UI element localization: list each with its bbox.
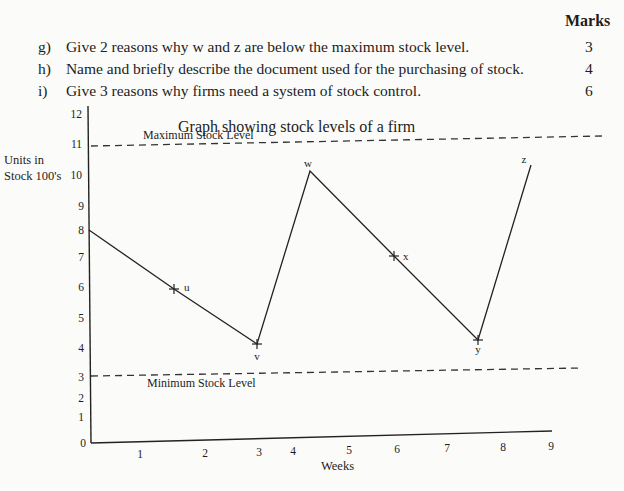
y-tick-label: 2 (78, 392, 84, 404)
y-tick-label: 11 (71, 138, 82, 150)
y-tick-label: 5 (78, 312, 84, 324)
x-axis-label: Weeks (321, 459, 354, 473)
y-axis-label-line-1: Units in (4, 153, 45, 167)
x-tick-label: 4 (290, 445, 296, 457)
x-tick-label: 3 (256, 446, 262, 458)
x-tick-label: 7 (444, 442, 450, 454)
y-tick-label: 8 (78, 224, 84, 236)
y-tick-label: 9 (78, 200, 84, 212)
data-point-markers: uvwxyz (169, 153, 527, 362)
point-label-y: y (475, 343, 481, 355)
y-tick-label: 10 (71, 169, 83, 181)
point-label-u: u (184, 281, 190, 293)
x-tick-label: 9 (548, 440, 554, 452)
point-label-w: w (304, 157, 312, 169)
stock-level-line (89, 165, 531, 344)
y-tick-label: 7 (78, 251, 84, 263)
x-tick-label: 2 (202, 447, 208, 459)
x-tick-label: 1 (137, 448, 143, 460)
y-tick-label: 12 (71, 108, 83, 120)
x-tick-label: 8 (500, 441, 506, 453)
point-label-x: x (403, 250, 409, 262)
point-label-z: z (522, 153, 527, 165)
y-tick-label: 3 (78, 371, 84, 383)
y-axis (88, 106, 91, 443)
y-tick-label: 1 (78, 411, 84, 423)
stock-level-chart: Graph showing stock levels of a firm Uni… (0, 0, 624, 491)
x-tick-label: 5 (346, 444, 352, 456)
minimum-stock-level-label: Minimum Stock Level (147, 376, 256, 390)
y-tick-labels: 0123456789101112 (71, 108, 87, 449)
y-tick-label: 6 (78, 281, 84, 293)
y-axis-label-line-2: Stock 100's (4, 169, 62, 183)
x-tick-label: 6 (394, 443, 400, 455)
y-tick-label: 0 (80, 437, 86, 449)
x-tick-labels: 123456789 (137, 440, 554, 460)
point-label-v: v (254, 350, 260, 362)
minimum-stock-level-line (91, 368, 582, 376)
maximum-stock-level-label: Maximum Stock Level (143, 128, 254, 142)
x-axis (91, 431, 552, 443)
y-tick-label: 4 (78, 342, 84, 354)
